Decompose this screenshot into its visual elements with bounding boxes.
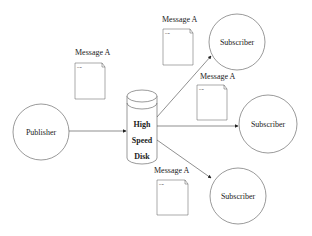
subscriber-label: Subscriber: [221, 192, 256, 201]
disk-label-3: Disk: [134, 152, 150, 161]
message-label: Message A: [200, 72, 236, 81]
document-icon-text: Item: [199, 88, 204, 91]
publisher-label: Publisher: [26, 128, 57, 137]
subscriber-label: Subscriber: [220, 38, 255, 47]
pubsub-diagram: Publisher High Speed Disk Subscriber Sub…: [0, 0, 312, 236]
disk-node: High Speed Disk: [127, 90, 157, 164]
disk-label-1: High: [134, 120, 151, 129]
document-icon-text: Item: [159, 183, 164, 186]
message-label: Message A: [162, 15, 198, 24]
message-doc: Message A Item: [197, 72, 236, 120]
publisher-node: Publisher: [13, 104, 69, 160]
subscriber-node: Subscriber: [210, 168, 266, 224]
document-icon-text: Item: [77, 66, 82, 69]
subscriber-label: Subscriber: [251, 120, 286, 129]
subscriber-node: Subscriber: [239, 95, 297, 153]
message-label: Message A: [75, 48, 111, 57]
disk-label-2: Speed: [132, 136, 153, 145]
message-label: Message A: [154, 166, 190, 175]
subscriber-node: Subscriber: [209, 14, 265, 70]
message-doc: Message A Item: [154, 166, 190, 215]
message-doc: Message A Item: [75, 48, 111, 99]
message-doc: Message A Item: [162, 15, 198, 65]
document-icon-text: Item: [165, 32, 170, 35]
